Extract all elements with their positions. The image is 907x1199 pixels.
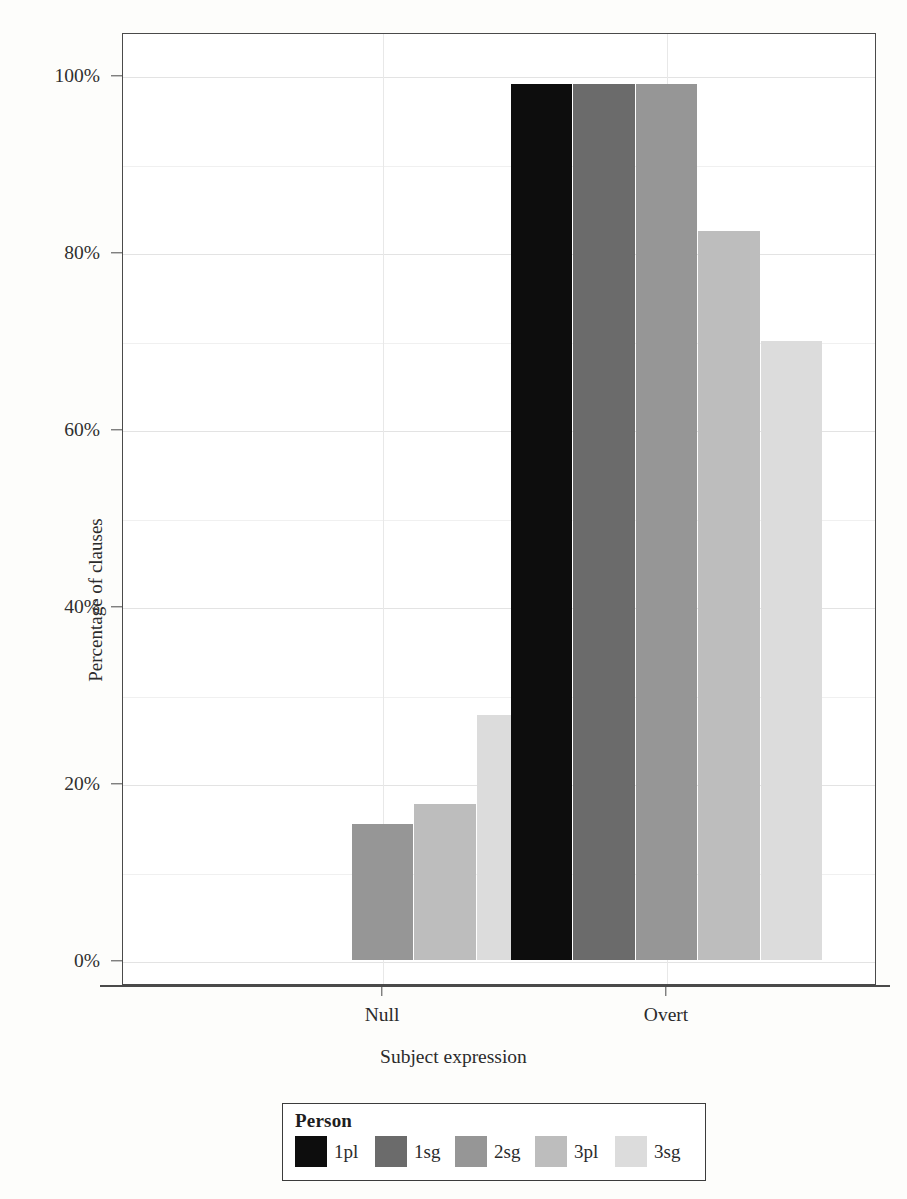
bar-overt-3sg (761, 341, 823, 961)
legend-item-label: 3sg (654, 1141, 680, 1163)
gridline-horizontal (123, 254, 875, 255)
legend-title: Person (295, 1110, 695, 1132)
legend-item-label: 1sg (414, 1141, 440, 1163)
bar-overt-3pl (698, 231, 760, 960)
y-tick-label: 80% (64, 242, 100, 264)
x-axis-title: Subject expression (0, 1046, 907, 1068)
legend-item-label: 2sg (494, 1141, 520, 1163)
x-tick-mark (381, 985, 382, 996)
legend-swatch-icon (375, 1136, 407, 1167)
legend-item-2sg[interactable]: 2sg (455, 1136, 535, 1167)
x-tick-mark (665, 985, 666, 996)
legend-swatch-icon (295, 1136, 327, 1167)
gridline-horizontal (123, 77, 875, 78)
y-tick-mark (111, 783, 122, 784)
plot-area (122, 33, 876, 985)
legend-swatch-icon (535, 1136, 567, 1167)
legend-item-label: 3pl (574, 1141, 598, 1163)
y-tick-label: 40% (64, 596, 100, 618)
legend: Person 1pl1sg2sg3pl3sg (282, 1103, 706, 1181)
legend-item-label: 1pl (334, 1141, 358, 1163)
gridline-horizontal (123, 166, 875, 167)
legend-swatch-icon (455, 1136, 487, 1167)
y-tick-mark (111, 252, 122, 253)
legend-item-3sg[interactable]: 3sg (615, 1136, 695, 1167)
x-axis-line (100, 985, 890, 987)
y-tick-mark (111, 75, 122, 76)
x-tick-label: Overt (644, 1004, 688, 1026)
legend-swatch-icon (615, 1136, 647, 1167)
legend-items: 1pl1sg2sg3pl3sg (295, 1136, 695, 1167)
legend-item-1sg[interactable]: 1sg (375, 1136, 455, 1167)
bar-overt-1sg (573, 84, 635, 960)
y-tick-mark (111, 606, 122, 607)
gridline-horizontal (123, 962, 875, 963)
y-tick-mark (111, 429, 122, 430)
bar-null-3pl (414, 804, 476, 960)
bar-overt-1pl (511, 84, 573, 960)
bar-overt-2sg (636, 84, 698, 960)
y-tick-label: 20% (64, 773, 100, 795)
x-tick-label: Null (365, 1004, 400, 1026)
y-tick-label: 60% (64, 419, 100, 441)
y-tick-label: 0% (74, 950, 100, 972)
legend-item-1pl[interactable]: 1pl (295, 1136, 375, 1167)
y-tick-mark (111, 960, 122, 961)
y-tick-label: 100% (55, 65, 101, 87)
legend-item-3pl[interactable]: 3pl (535, 1136, 615, 1167)
bar-chart-figure: Percentage of clauses 100%80%60%40%20%0%… (0, 0, 907, 1199)
bar-null-2sg (352, 824, 414, 960)
